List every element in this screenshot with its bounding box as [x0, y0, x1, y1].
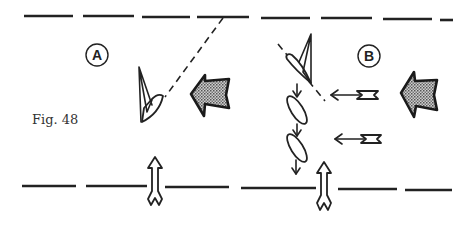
panel-b-sailboat-icon — [286, 34, 311, 83]
panel-a-sailboat-icon — [139, 67, 163, 122]
panel-b-current-arrow-upper-icon — [331, 90, 378, 100]
panel-b-current-arrow-up-icon — [317, 162, 331, 210]
figure-48-diagram: A B Fig. 48 — [0, 0, 475, 225]
panel-a-label: A — [86, 44, 108, 66]
drift-arrow-3-icon — [292, 160, 300, 174]
panel-a-current-arrow-icon — [148, 157, 162, 205]
panel-b-label: B — [358, 45, 380, 67]
panel-a-letter: A — [92, 47, 102, 63]
panel-b-hull-1-icon — [283, 93, 310, 126]
panel-b-wind-arrow-icon — [401, 72, 437, 117]
bottom-boundary-line — [22, 186, 452, 190]
panel-b-letter: B — [364, 48, 374, 64]
panel-a-wind-arrow-icon — [191, 75, 229, 116]
panel-b-current-arrow-lower-icon — [335, 134, 381, 144]
figure-caption: Fig. 48 — [32, 112, 78, 127]
drift-arrow-2-icon — [293, 124, 301, 136]
top-boundary-line — [24, 16, 453, 20]
drift-arrow-1-icon — [293, 84, 301, 97]
